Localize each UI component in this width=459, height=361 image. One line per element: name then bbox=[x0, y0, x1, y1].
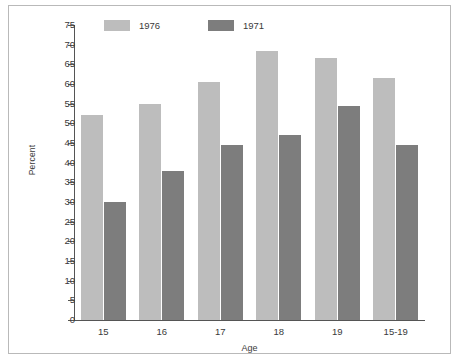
plot-area: 1976 1971 Percent 0510152025303540455055… bbox=[0, 0, 459, 361]
bar-1971-17 bbox=[221, 145, 243, 320]
x-axis-title: Age bbox=[74, 343, 425, 353]
x-tick-label: 15-19 bbox=[366, 326, 426, 337]
bar-group bbox=[315, 25, 360, 320]
x-tick-label: 18 bbox=[249, 326, 309, 337]
bar-group bbox=[81, 25, 126, 320]
chart-figure: 1976 1971 Percent 0510152025303540455055… bbox=[0, 0, 459, 361]
bar-1976-16 bbox=[139, 104, 161, 320]
bar-1971-19 bbox=[338, 106, 360, 320]
bar-1971-15-19 bbox=[396, 145, 418, 320]
bar-group bbox=[139, 25, 184, 320]
x-tick-label: 19 bbox=[307, 326, 367, 337]
x-tick-label: 16 bbox=[132, 326, 192, 337]
bar-group bbox=[256, 25, 301, 320]
bar-1971-15 bbox=[104, 202, 126, 320]
bar-1976-19 bbox=[315, 58, 337, 320]
x-tick-label: 17 bbox=[190, 326, 250, 337]
bar-1976-15 bbox=[81, 115, 103, 320]
bar-1976-15-19 bbox=[373, 78, 395, 320]
bar-1971-16 bbox=[162, 171, 184, 320]
x-tick-label: 15 bbox=[73, 326, 133, 337]
bar-1971-18 bbox=[279, 135, 301, 320]
bars-layer bbox=[0, 0, 459, 361]
bar-group bbox=[373, 25, 418, 320]
bar-1976-18 bbox=[256, 51, 278, 320]
bar-1976-17 bbox=[198, 82, 220, 320]
bar-group bbox=[198, 25, 243, 320]
